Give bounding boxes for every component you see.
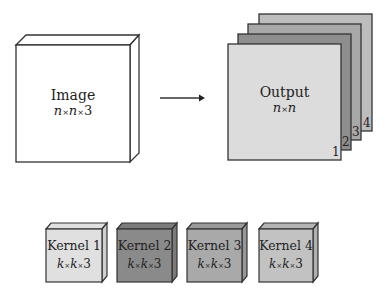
kernel-title: Kernel 1 — [46, 240, 102, 253]
kernel-4-label: Kernel 4 k×k×3 — [259, 240, 313, 270]
dim-n: n — [54, 103, 62, 118]
times-symbol: × — [281, 105, 288, 114]
kernel-dimensions: k×k×3 — [187, 258, 242, 270]
dim-channels: 3 — [84, 103, 92, 118]
channel-index-3: 3 — [352, 126, 360, 138]
kernel-title: Kernel 3 — [187, 240, 242, 253]
dim-n: n — [273, 100, 281, 115]
kernel-dimensions: k×k×3 — [259, 258, 313, 270]
channel-index-1: 1 — [332, 146, 340, 158]
kernel-2-label: Kernel 2 k×k×3 — [117, 240, 172, 270]
kernel-title: Kernel 2 — [117, 240, 172, 253]
channel-index-2: 2 — [342, 136, 350, 148]
times-symbol: × — [62, 108, 69, 117]
output-title: Output — [228, 85, 341, 99]
kernel-dimensions: k×k×3 — [46, 258, 102, 270]
kernel-3-label: Kernel 3 k×k×3 — [187, 240, 242, 270]
kernel-title: Kernel 4 — [259, 240, 313, 253]
arrow-right-icon — [160, 95, 205, 102]
kernel-dimensions: k×k×3 — [117, 258, 172, 270]
input-title: Image — [16, 88, 130, 102]
input-dimensions: n×n×3 — [16, 104, 130, 117]
dim-n: n — [69, 103, 77, 118]
channel-index-4: 4 — [363, 117, 371, 129]
kernel-1-label: Kernel 1 k×k×3 — [46, 240, 102, 270]
output-dimensions: n×n — [228, 101, 341, 114]
dim-n: n — [288, 100, 296, 115]
times-symbol: × — [77, 108, 84, 117]
